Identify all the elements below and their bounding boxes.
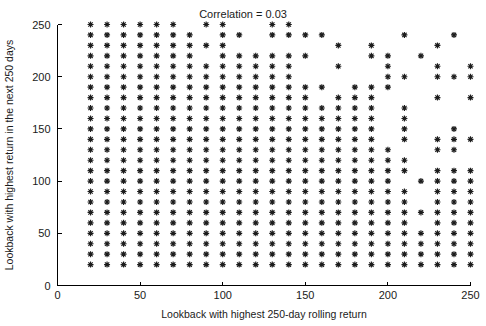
data-point xyxy=(137,84,143,90)
marker-glyph xyxy=(253,178,259,184)
marker-glyph xyxy=(154,230,160,236)
marker-glyph xyxy=(451,251,457,257)
data-point xyxy=(286,209,292,215)
marker-glyph xyxy=(104,189,110,195)
data-point xyxy=(203,74,209,80)
marker-glyph xyxy=(236,199,242,205)
data-point xyxy=(137,136,143,142)
marker-glyph xyxy=(401,241,407,247)
data-point xyxy=(187,63,193,69)
data-point xyxy=(253,189,259,195)
data-point xyxy=(170,199,176,205)
data-point xyxy=(269,105,275,111)
data-point xyxy=(319,84,325,90)
marker-glyph xyxy=(385,147,391,153)
data-point xyxy=(352,209,358,215)
marker-glyph xyxy=(121,105,127,111)
marker-glyph xyxy=(104,241,110,247)
marker-glyph xyxy=(121,157,127,163)
marker-glyph xyxy=(352,115,358,121)
data-point xyxy=(170,220,176,226)
data-point xyxy=(236,74,242,80)
marker-glyph xyxy=(434,189,440,195)
data-point xyxy=(170,74,176,80)
data-point xyxy=(352,251,358,257)
data-point xyxy=(352,136,358,142)
marker-glyph xyxy=(170,209,176,215)
marker-glyph xyxy=(253,168,259,174)
marker-glyph xyxy=(187,53,193,59)
data-point xyxy=(104,115,110,121)
marker-glyph xyxy=(104,22,110,28)
data-point xyxy=(137,251,143,257)
data-point xyxy=(385,74,391,80)
x-tick-label: 50 xyxy=(134,289,146,301)
data-point xyxy=(302,199,308,205)
marker-glyph xyxy=(236,32,242,38)
data-point xyxy=(385,147,391,153)
data-point xyxy=(154,95,160,101)
marker-glyph xyxy=(220,168,226,174)
marker-glyph xyxy=(434,147,440,153)
marker-glyph xyxy=(88,209,94,215)
data-point xyxy=(203,178,209,184)
marker-glyph xyxy=(137,63,143,69)
marker-glyph xyxy=(187,74,193,80)
marker-glyph xyxy=(468,220,474,226)
marker-glyph xyxy=(236,251,242,257)
data-point xyxy=(88,157,94,163)
marker-glyph xyxy=(104,157,110,163)
data-point xyxy=(253,115,259,121)
data-point xyxy=(137,199,143,205)
data-point xyxy=(286,53,292,59)
marker-glyph xyxy=(418,178,424,184)
marker-glyph xyxy=(319,262,325,268)
marker-glyph xyxy=(154,126,160,132)
marker-glyph xyxy=(88,168,94,174)
marker-glyph xyxy=(269,115,275,121)
data-point xyxy=(286,74,292,80)
data-point xyxy=(319,178,325,184)
data-point xyxy=(269,220,275,226)
marker-glyph xyxy=(335,199,341,205)
marker-glyph xyxy=(352,105,358,111)
marker-glyph xyxy=(170,178,176,184)
data-point xyxy=(203,241,209,247)
data-point xyxy=(137,126,143,132)
data-point xyxy=(203,22,209,28)
marker-glyph xyxy=(302,168,308,174)
data-point xyxy=(170,42,176,48)
data-point xyxy=(88,209,94,215)
marker-glyph xyxy=(203,230,209,236)
marker-glyph xyxy=(203,63,209,69)
data-point xyxy=(187,74,193,80)
data-point xyxy=(220,147,226,153)
data-point xyxy=(121,74,127,80)
marker-glyph xyxy=(253,63,259,69)
marker-glyph xyxy=(88,115,94,121)
marker-glyph xyxy=(187,115,193,121)
data-point xyxy=(368,220,374,226)
marker-glyph xyxy=(88,105,94,111)
marker-glyph xyxy=(88,199,94,205)
data-point xyxy=(253,251,259,257)
marker-glyph xyxy=(104,42,110,48)
data-point xyxy=(401,126,407,132)
data-point xyxy=(236,189,242,195)
data-point xyxy=(451,251,457,257)
data-point xyxy=(434,209,440,215)
marker-glyph xyxy=(253,147,259,153)
data-point xyxy=(269,251,275,257)
data-point xyxy=(137,189,143,195)
marker-glyph xyxy=(302,32,308,38)
marker-glyph xyxy=(121,22,127,28)
data-point xyxy=(286,147,292,153)
data-point xyxy=(154,84,160,90)
marker-glyph xyxy=(368,230,374,236)
data-point xyxy=(335,178,341,184)
marker-glyph xyxy=(434,74,440,80)
data-point xyxy=(451,199,457,205)
marker-glyph xyxy=(104,220,110,226)
marker-glyph xyxy=(170,63,176,69)
data-point xyxy=(203,95,209,101)
